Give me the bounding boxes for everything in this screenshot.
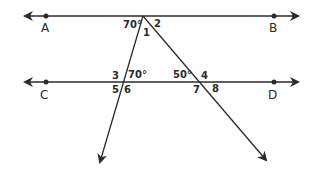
geometry-diagram: A B C D 70° 1 2 3 70° 5 6 50° 4 7 8 bbox=[0, 0, 312, 175]
angle-label-5: 5 bbox=[112, 84, 119, 95]
angle-label-6: 6 bbox=[124, 84, 131, 95]
point-a-label: A bbox=[41, 21, 50, 35]
point-d-dot bbox=[272, 80, 277, 85]
transversal-left bbox=[100, 16, 143, 162]
angle-label-mid-left-70: 70° bbox=[128, 69, 147, 80]
angle-label-1: 1 bbox=[143, 27, 150, 38]
angle-label-mid-right-50: 50° bbox=[173, 69, 192, 80]
transversal-right bbox=[143, 16, 266, 160]
point-c-label: C bbox=[40, 88, 48, 102]
point-c-dot bbox=[44, 80, 49, 85]
angle-label-4: 4 bbox=[201, 70, 208, 81]
point-b-dot bbox=[272, 14, 277, 19]
angle-label-2: 2 bbox=[154, 18, 161, 29]
angle-label-7: 7 bbox=[193, 84, 200, 95]
point-d-label: D bbox=[268, 88, 277, 102]
point-a-dot bbox=[44, 14, 49, 19]
point-b-label: B bbox=[269, 21, 277, 35]
angle-label-top-left-70: 70° bbox=[123, 19, 142, 30]
angle-label-3: 3 bbox=[112, 70, 119, 81]
angle-label-8: 8 bbox=[212, 83, 219, 94]
